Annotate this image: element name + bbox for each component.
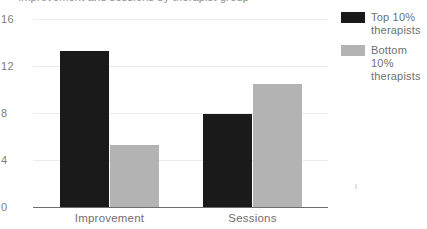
y-axis-tick-label: 0 <box>1 201 27 213</box>
y-axis-tick-label: 12 <box>1 60 27 72</box>
chart-title: Improvement and sessions by therapist gr… <box>18 0 249 3</box>
page-artifact <box>355 184 357 189</box>
light-swatch <box>341 45 365 56</box>
y-axis: 1612840 <box>0 19 27 207</box>
legend-item-label: Bottom 10% therapists <box>371 44 427 83</box>
bars-layer <box>33 19 328 207</box>
legend-item[interactable]: Bottom 10% therapists <box>341 44 427 83</box>
y-axis-tick-label: 16 <box>1 13 27 25</box>
legend-item-label: Top 10% therapists <box>371 11 427 37</box>
dark-swatch <box>341 12 365 23</box>
bar <box>203 114 252 207</box>
y-axis-tick-label: 8 <box>1 107 27 119</box>
x-axis-line <box>33 207 328 208</box>
bar <box>60 51 109 207</box>
y-axis-tick-label: 4 <box>1 154 27 166</box>
legend-item[interactable]: Top 10% therapists <box>341 11 427 37</box>
x-axis-tick-label: Sessions <box>193 212 313 224</box>
bar-chart: Improvement and sessions by therapist gr… <box>0 0 427 229</box>
chart-legend: Top 10% therapists Bottom 10% therapists <box>341 11 427 90</box>
bar <box>253 84 302 207</box>
bar <box>110 145 159 207</box>
x-axis-tick-label: Improvement <box>50 212 170 224</box>
